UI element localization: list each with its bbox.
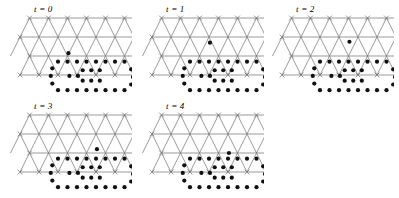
lattice-dot	[230, 68, 234, 72]
lattice-dot	[188, 88, 192, 92]
lattice-dot	[337, 88, 341, 92]
lattice-dot	[122, 157, 126, 161]
lattice-dot	[50, 81, 54, 85]
lattice-dot	[261, 82, 264, 86]
lattice-dot	[67, 171, 71, 175]
lattice-dot	[181, 171, 185, 175]
lattice-dot	[84, 88, 88, 92]
lattice-dot	[56, 88, 60, 92]
lattice-dot	[89, 68, 93, 72]
lattice-dot	[181, 74, 185, 78]
panel-t1: t = 1	[138, 4, 264, 96]
lattice-dot	[216, 60, 220, 64]
lattice-dot	[65, 185, 69, 189]
lattice-dot	[337, 60, 341, 64]
lattice-dot	[75, 157, 79, 161]
lattice-dot	[230, 79, 234, 83]
lattice-dot	[207, 157, 211, 161]
lattice-dot	[122, 185, 126, 189]
lattice-dot	[375, 60, 379, 64]
lattice-dot	[131, 75, 132, 79]
lattice-dot	[346, 60, 350, 64]
lattice-dot	[98, 165, 102, 169]
lattice-dot	[89, 79, 93, 83]
lattice-dot	[318, 60, 322, 64]
lattice-dot	[98, 79, 102, 83]
lattice-dot	[49, 74, 53, 78]
lattice-dot	[343, 68, 347, 72]
lattice-dot	[207, 185, 211, 189]
lattice-dot	[103, 88, 107, 92]
lattice-dot	[182, 81, 186, 85]
lattice-dot	[213, 165, 217, 169]
lattice-dot	[188, 157, 192, 161]
lattice-dot	[207, 88, 211, 92]
lattice-dot	[312, 66, 316, 70]
lattice-dot	[199, 171, 203, 175]
lattice-dot	[197, 185, 201, 189]
lattice-dot	[360, 79, 364, 83]
lattice-dot	[356, 60, 360, 64]
lattice-dot	[226, 88, 230, 92]
lattice-dot	[327, 60, 331, 64]
lattice-dot	[182, 178, 186, 182]
lattice-dot	[81, 165, 85, 169]
free-dot	[66, 51, 70, 55]
lattice-dot	[75, 185, 79, 189]
particle-dots	[6, 109, 132, 193]
lattice-dot	[188, 185, 192, 189]
lattice-dot	[235, 60, 239, 64]
lattice-dot	[391, 82, 394, 86]
particle-dots	[138, 12, 264, 96]
lattice-dot	[84, 185, 88, 189]
lattice-dot	[89, 165, 93, 169]
lattice-dot	[49, 171, 53, 175]
lattice-dot	[311, 74, 315, 78]
lattice-dot	[94, 88, 98, 92]
lattice-dot	[365, 88, 369, 92]
lattice-dot	[113, 185, 117, 189]
lattice-dot	[318, 88, 322, 92]
lattice-dot	[84, 60, 88, 64]
lattice-dot	[65, 88, 69, 92]
lattice-dot	[56, 185, 60, 189]
lattice-dot	[263, 75, 264, 79]
lattice-dot	[197, 157, 201, 161]
lattice-dot	[226, 60, 230, 64]
lattice-dot	[351, 68, 355, 72]
particle-dots	[268, 12, 394, 96]
lattice-dot	[50, 178, 54, 182]
lattice-dot	[94, 185, 98, 189]
lattice-dot	[235, 185, 239, 189]
lattice-figure: t = 0t = 1t = 2t = 3t = 4	[0, 0, 399, 198]
particle-dots	[138, 109, 264, 193]
lattice-dot	[230, 176, 234, 180]
free-dot	[208, 41, 212, 45]
lattice-dot	[343, 79, 347, 83]
lattice-dot	[113, 88, 117, 92]
panel-t4: t = 4	[138, 101, 264, 193]
free-dot	[227, 151, 231, 155]
lattice-dot	[199, 74, 203, 78]
lattice-dot	[50, 66, 54, 70]
lattice-dot	[56, 60, 60, 64]
lattice-dot	[213, 176, 217, 180]
lattice-dot	[67, 74, 71, 78]
lattice-dot	[338, 74, 342, 78]
lattice-dot	[245, 88, 249, 92]
lattice-dot	[98, 176, 102, 180]
lattice-dot	[261, 67, 264, 71]
lattice-dot	[129, 164, 132, 168]
free-dot	[95, 147, 99, 151]
lattice-dot	[261, 164, 264, 168]
lattice-dot	[76, 171, 80, 175]
lattice-dot	[129, 179, 132, 183]
lattice-dot	[261, 179, 264, 183]
lattice-dot	[384, 88, 388, 92]
lattice-dot	[213, 68, 217, 72]
lattice-dot	[254, 60, 258, 64]
lattice-dot	[230, 165, 234, 169]
lattice-dot	[81, 79, 85, 83]
particle-dots	[6, 12, 132, 96]
lattice-dot	[351, 79, 355, 83]
